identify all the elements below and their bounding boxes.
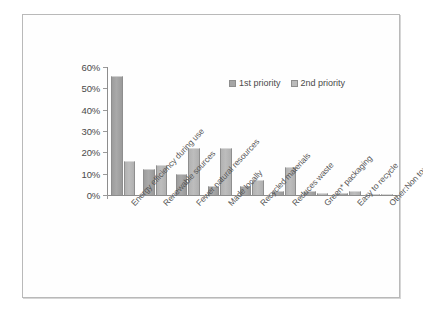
legend-label: 1st priority [239, 78, 281, 88]
y-axis-tick-label: 0% [87, 190, 100, 201]
x-axis-category-label: Energy efficiency during use [129, 201, 136, 208]
x-axis-category-label: Made locally [226, 201, 233, 208]
x-axis-tick [171, 195, 172, 199]
chart-figure-frame: 60%50%40%30%20%10%0% Energy efficiency d… [22, 14, 400, 298]
x-axis-category-label: Other:Non toxic for family [387, 201, 394, 208]
x-axis-tick [333, 195, 334, 199]
bar-second-priority [124, 161, 136, 195]
chart-legend: 1st priority2nd priority [229, 78, 345, 88]
x-axis-category-label: Reduces waste [290, 201, 297, 208]
y-axis-tick-label: 30% [82, 126, 100, 137]
y-axis-tick-label: 50% [82, 83, 100, 94]
legend-label: 2nd priority [301, 78, 346, 88]
bar-second-priority [349, 191, 361, 195]
legend-entry-first-priority[interactable]: 1st priority [229, 78, 281, 88]
y-axis-tick-label: 60% [82, 62, 100, 73]
x-axis-tick [397, 195, 398, 199]
x-axis-tick [236, 195, 237, 199]
x-axis-tick [204, 195, 205, 199]
y-axis-tick-label: 20% [82, 147, 100, 158]
x-axis-tick [139, 195, 140, 199]
y-axis-tick-label: 40% [82, 104, 100, 115]
x-axis-tick [107, 195, 108, 199]
x-axis-category-label: Green* packaging [322, 201, 329, 208]
x-axis-category-label: Recycled materials [258, 201, 265, 208]
x-axis-category-label: Easy to recycle [355, 201, 362, 208]
legend-swatch-icon [291, 80, 298, 87]
x-axis-line [107, 195, 397, 196]
bar-group [107, 67, 139, 195]
legend-entry-second-priority[interactable]: 2nd priority [291, 78, 346, 88]
x-axis-tick [300, 195, 301, 199]
x-axis-category-label: Fewer natural resources [194, 201, 201, 208]
y-axis-tick-label: 10% [82, 168, 100, 179]
legend-swatch-icon [229, 80, 236, 87]
x-axis-tick [365, 195, 366, 199]
bar-first-priority [111, 76, 123, 195]
x-axis-category-label: Renewable sources [161, 201, 168, 208]
x-axis-tick [268, 195, 269, 199]
